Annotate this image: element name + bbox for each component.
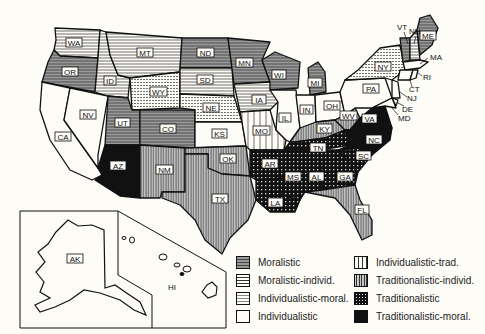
svg-text:IL: IL <box>282 114 289 123</box>
svg-text:MS: MS <box>287 173 299 182</box>
svg-text:ID: ID <box>106 77 114 86</box>
label-WV: WV <box>340 111 357 121</box>
legend-item-individualistic-trad: Individualistic-trad. <box>354 253 474 271</box>
legend-item-traditionalistic: Traditionalistic <box>354 289 474 307</box>
svg-text:MT: MT <box>139 49 151 58</box>
svg-text:KY: KY <box>319 125 330 134</box>
label-TN: TN <box>310 143 326 153</box>
label-MS: MS <box>285 172 301 182</box>
legend-label: Traditionalistic-individ. <box>376 275 474 286</box>
svg-text:VT: VT <box>397 23 407 32</box>
label-MN: MN <box>236 58 253 68</box>
state-AZ <box>95 145 140 198</box>
label-NM: NM <box>156 165 173 175</box>
svg-text:KS: KS <box>214 130 225 139</box>
label-LA: LA <box>268 198 283 208</box>
label-NY: NY <box>375 62 391 72</box>
svg-text:MI: MI <box>311 79 320 88</box>
label-OH: OH <box>324 101 340 111</box>
svg-text:WI: WI <box>274 71 284 80</box>
svg-text:TN: TN <box>313 144 324 153</box>
pattern-moralistic-individ-icon <box>236 274 250 287</box>
label-NC: NC <box>366 135 382 145</box>
svg-text:OK: OK <box>222 155 234 164</box>
pattern-individualistic-trad-icon <box>354 256 368 269</box>
svg-text:NC: NC <box>368 136 380 145</box>
label-PA: PA <box>363 84 379 94</box>
svg-text:SC: SC <box>358 152 369 161</box>
legend-item-traditionalistic-moral: Traditionalistic-moral. <box>354 307 474 325</box>
svg-text:TX: TX <box>215 195 226 204</box>
pattern-moralistic-icon <box>236 256 250 269</box>
label-ID: ID <box>104 76 116 86</box>
svg-text:CT: CT <box>409 85 420 94</box>
label-IA: IA <box>252 95 266 105</box>
label-VA: VA <box>362 114 377 124</box>
svg-text:UT: UT <box>117 119 128 128</box>
label-MI: MI <box>308 78 322 88</box>
state-NJ <box>392 80 400 98</box>
legend-label: Individualistic <box>258 311 317 322</box>
label-FL: FL <box>355 205 369 215</box>
svg-text:NE: NE <box>205 104 216 113</box>
svg-text:WA: WA <box>68 39 81 48</box>
svg-text:AR: AR <box>264 160 275 169</box>
pattern-individualistic-icon <box>236 310 250 323</box>
svg-text:CA: CA <box>57 133 69 142</box>
label-WA: WA <box>66 38 82 48</box>
label-IN: IN <box>300 105 313 115</box>
label-AL: AL <box>309 172 324 182</box>
svg-text:AZ: AZ <box>113 162 123 171</box>
label-MO: MO <box>253 126 270 136</box>
pattern-traditionalistic-moral-icon <box>354 310 368 323</box>
svg-text:OR: OR <box>64 68 76 77</box>
legend-label: Traditionalistic-moral. <box>376 311 471 322</box>
svg-text:MD: MD <box>398 114 411 123</box>
svg-text:SD: SD <box>199 76 210 85</box>
legend-item-moralistic: Moralistic <box>236 253 349 271</box>
label-WY: WY <box>150 87 167 97</box>
label-SD: SD <box>197 75 213 85</box>
legend-label: Individualistic-moral. <box>258 293 349 304</box>
legend-label: Moralistic-individ. <box>258 275 335 286</box>
label-NV: NV <box>80 110 96 120</box>
label-ME: ME <box>420 31 436 41</box>
label-NE: NE <box>203 103 219 113</box>
label-IL: IL <box>279 113 291 123</box>
legend-item-moralistic-individ: Moralistic-individ. <box>236 271 349 289</box>
legend-item-traditionalistic-individ: Traditionalistic-individ. <box>354 271 474 289</box>
svg-text:MN: MN <box>238 59 251 68</box>
svg-text:FL: FL <box>357 206 367 215</box>
svg-text:VA: VA <box>364 115 375 124</box>
state-MA <box>403 60 428 70</box>
legend-label: Traditionalistic <box>376 293 440 304</box>
svg-text:WY: WY <box>152 88 166 97</box>
label-MT: MT <box>137 48 153 58</box>
svg-text:MA: MA <box>430 53 443 62</box>
label-OK: OK <box>220 154 236 164</box>
label-GA: GA <box>337 172 353 182</box>
svg-text:ME: ME <box>422 32 434 41</box>
svg-text:NM: NM <box>158 166 171 175</box>
label-TX: TX <box>212 194 228 204</box>
label-OR: OR <box>62 67 78 77</box>
svg-text:WV: WV <box>342 112 356 121</box>
label-KS: KS <box>212 129 227 139</box>
svg-text:OH: OH <box>326 102 338 111</box>
legend: Moralistic Moralistic-individ. Individua… <box>236 253 481 325</box>
legend-label: Moralistic <box>258 257 300 268</box>
pattern-individualistic-moral-icon <box>236 292 250 305</box>
legend-column-left: Moralistic Moralistic-individ. Individua… <box>236 253 349 325</box>
svg-text:DE: DE <box>402 105 413 114</box>
svg-text:IN: IN <box>303 106 311 115</box>
pattern-traditionalistic-icon <box>354 292 368 305</box>
svg-text:AK: AK <box>70 255 81 264</box>
label-CA: CA <box>55 132 71 142</box>
svg-text:GA: GA <box>339 173 351 182</box>
legend-item-individualistic-moral: Individualistic-moral. <box>236 289 349 307</box>
label-CO: CO <box>160 124 176 134</box>
label-WI: WI <box>272 70 286 80</box>
label-AR: AR <box>262 159 278 169</box>
svg-text:LA: LA <box>271 199 281 208</box>
label-ND: ND <box>197 48 214 58</box>
